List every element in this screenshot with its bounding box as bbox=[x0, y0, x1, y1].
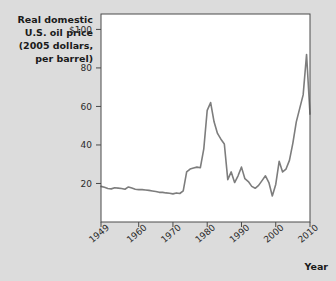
chart-title-line-4: per barrel) bbox=[35, 53, 93, 64]
y-axis-tick-label: 60 bbox=[81, 102, 93, 112]
oil-price-chart-figure: Real domestic U.S. oil price (2005 dolla… bbox=[0, 0, 336, 281]
chart-title-line-1: Real domestic bbox=[18, 14, 94, 25]
chart-title-line-3: (2005 dollars, bbox=[19, 40, 93, 51]
plot-area-background bbox=[101, 14, 310, 222]
chart-canvas: Real domestic U.S. oil price (2005 dolla… bbox=[0, 0, 336, 281]
y-axis-tick-label: 40 bbox=[81, 140, 93, 150]
y-axis-tick-label: 80 bbox=[81, 63, 93, 73]
y-axis-tick-label: 20 bbox=[81, 179, 93, 189]
x-axis-label: Year bbox=[303, 261, 328, 272]
y-axis-tick-label: $100 bbox=[69, 25, 92, 35]
